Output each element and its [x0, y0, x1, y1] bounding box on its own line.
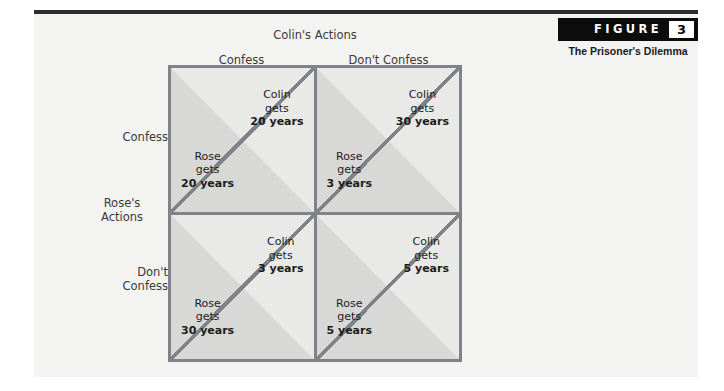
payoff-rose-amount: 5 years: [327, 324, 373, 338]
payoff-rose-verb: gets: [181, 163, 234, 177]
row-group-title-line1: Rose's: [104, 196, 141, 210]
figure-word-label: FIGURE: [594, 24, 669, 36]
payoff-matrix: Colin gets 20 years Rose gets 20 years C…: [168, 65, 462, 362]
payoff-cell-dontconfess-confess: Colin gets 3 years Rose gets 30 years: [171, 215, 314, 359]
row-group-title-line2: Actions: [101, 210, 143, 224]
row-header-dont-confess: Don't Confess: [72, 265, 168, 293]
payoff-colin: Colin gets 20 years: [250, 88, 303, 129]
row-header-confess-label: Confess: [123, 130, 168, 144]
payoff-rose-amount: 30 years: [181, 324, 234, 338]
payoff-rose-player: Rose: [327, 297, 373, 311]
payoff-rose-amount: 3 years: [327, 177, 373, 191]
payoff-cell-confess-dontconfess: Colin gets 30 years Rose gets 3 years: [317, 68, 460, 212]
column-group-title: Colin's Actions: [168, 28, 462, 42]
payoff-colin-verb: gets: [396, 102, 449, 116]
page-top-rule: [34, 10, 698, 14]
payoff-rose-verb: gets: [327, 310, 373, 324]
payoff-rose-amount: 20 years: [181, 177, 234, 191]
payoff-rose: Rose gets 5 years: [327, 297, 373, 338]
payoff-colin-verb: gets: [403, 249, 449, 263]
payoff-colin-player: Colin: [258, 235, 304, 249]
payoff-colin-verb: gets: [258, 249, 304, 263]
payoff-rose-verb: gets: [327, 163, 373, 177]
payoff-colin: Colin gets 5 years: [403, 235, 449, 276]
payoff-colin-player: Colin: [250, 88, 303, 102]
payoff-colin-amount: 3 years: [258, 262, 304, 276]
figure-badge: FIGURE 3: [558, 18, 698, 41]
payoff-cell-dontconfess-dontconfess: Colin gets 5 years Rose gets 5 years: [317, 215, 460, 359]
row-group-title: Rose's Actions: [74, 196, 170, 224]
payoff-colin: Colin gets 30 years: [396, 88, 449, 129]
payoff-colin: Colin gets 3 years: [258, 235, 304, 276]
payoff-rose: Rose gets 20 years: [181, 150, 234, 191]
payoff-rose-verb: gets: [181, 310, 234, 324]
payoff-rose: Rose gets 30 years: [181, 297, 234, 338]
payoff-rose-player: Rose: [181, 150, 234, 164]
row-header-dont-confess-line1: Don't: [137, 265, 168, 279]
row-header-confess: Confess: [72, 130, 168, 144]
payoff-rose-player: Rose: [181, 297, 234, 311]
payoff-rose: Rose gets 3 years: [327, 150, 373, 191]
figure-number-label: 3: [669, 21, 694, 38]
payoff-colin-amount: 20 years: [250, 115, 303, 129]
figure-page: FIGURE 3 The Prisoner's Dilemma Colin's …: [34, 10, 698, 377]
payoff-colin-player: Colin: [403, 235, 449, 249]
payoff-cell-confess-confess: Colin gets 20 years Rose gets 20 years: [171, 68, 314, 212]
payoff-colin-player: Colin: [396, 88, 449, 102]
payoff-colin-amount: 5 years: [403, 262, 449, 276]
payoff-colin-amount: 30 years: [396, 115, 449, 129]
row-header-dont-confess-line2: Confess: [123, 279, 168, 293]
payoff-rose-player: Rose: [327, 150, 373, 164]
payoff-colin-verb: gets: [250, 102, 303, 116]
figure-caption: The Prisoner's Dilemma: [558, 45, 698, 57]
